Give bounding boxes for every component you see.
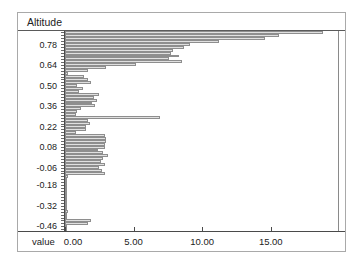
y-tick-label: -0.46 — [15, 221, 57, 231]
x-axis-title: value — [32, 236, 55, 247]
x-axis-line — [18, 231, 345, 232]
y-axis-tick-labels: 0.780.640.500.360.220.08-0.06-0.18-0.32-… — [18, 32, 60, 231]
y-tick-label: 0.78 — [15, 40, 57, 50]
y-tick-label: -0.32 — [15, 201, 57, 211]
chart-panel: Altitude 0.780.640.500.360.220.08-0.06-0… — [17, 12, 346, 252]
y-tick-label: 0.64 — [15, 60, 57, 70]
y-tick-label: 0.22 — [15, 122, 57, 132]
y-tick-label: 0.08 — [15, 142, 57, 152]
y-tick-label: 0.50 — [15, 81, 57, 91]
x-tick-label: 15.00 — [259, 236, 283, 247]
x-tick-label: 10.00 — [190, 236, 214, 247]
y-tick-label: -0.18 — [15, 180, 57, 190]
chart-header: Altitude — [18, 13, 345, 31]
y-tick-label: 0.36 — [15, 101, 57, 111]
x-tick-label: 0.00 — [64, 236, 83, 247]
y-axis-title: Altitude — [27, 16, 62, 28]
y-tick-label: -0.06 — [15, 163, 57, 173]
x-axis-tick-labels: 0.005.0010.0015.00 — [65, 235, 338, 249]
x-tick-label: 5.00 — [124, 236, 143, 247]
plot-area — [64, 31, 339, 231]
bar-series — [65, 31, 338, 231]
